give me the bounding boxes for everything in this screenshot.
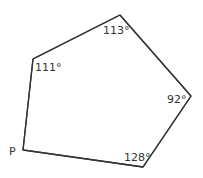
angle-label-bottom-right: 128° xyxy=(124,151,151,164)
edge-topleft-to-top xyxy=(33,15,120,59)
angle-label-top: 113° xyxy=(103,24,130,37)
edge-p-to-topleft xyxy=(23,59,33,150)
pentagon-diagram: P 111° 113° 92° 128° xyxy=(0,0,203,178)
angle-label-top-left: 111° xyxy=(35,61,62,74)
edge-top-to-right xyxy=(120,15,191,96)
vertex-label-p: P xyxy=(9,145,16,158)
angle-label-right: 92° xyxy=(167,93,187,106)
diagram-canvas: P 111° 113° 92° 128° xyxy=(0,0,203,178)
pentagon-outline xyxy=(23,15,191,167)
